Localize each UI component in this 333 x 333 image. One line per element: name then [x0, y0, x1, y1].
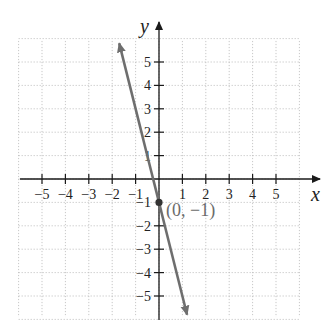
- y-axis-label: y: [138, 15, 149, 38]
- y-tick-label: −2: [136, 219, 151, 234]
- point-label: (0, −1): [166, 200, 215, 221]
- labeled-point: [155, 199, 162, 206]
- y-tick-label: 5: [144, 55, 151, 70]
- y-tick-label: 4: [144, 78, 151, 93]
- x-tick-label: −2: [105, 187, 120, 202]
- line-graph: −5−4−3−2−112345−5−4−3−212345−1 x y (0, −…: [0, 0, 333, 333]
- x-axis-label: x: [310, 183, 320, 205]
- point-marker: [155, 199, 162, 206]
- y-tick-label: 2: [144, 125, 151, 140]
- x-tick-label: −5: [35, 187, 50, 202]
- x-tick-label: −3: [81, 187, 96, 202]
- x-tick-label: −4: [58, 187, 73, 202]
- x-tick-label: 5: [273, 187, 280, 202]
- y-tick-label: −1: [136, 195, 151, 210]
- x-tick-label: 3: [226, 187, 233, 202]
- y-tick-label: −4: [136, 266, 151, 281]
- y-tick-label: 3: [144, 102, 151, 117]
- y-tick-label: −5: [136, 289, 151, 304]
- x-tick-label: 4: [249, 187, 256, 202]
- y-tick-label: −3: [136, 242, 151, 257]
